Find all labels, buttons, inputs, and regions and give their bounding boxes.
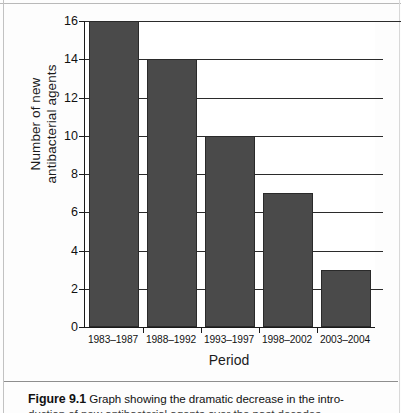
x-axis-tick-label: 1988–1992 [142,334,200,345]
y-axis-title-line1: Number of new [28,0,44,254]
y-axis-tick [79,174,85,175]
bar-chart: Number of new antibacterial agents 02468… [0,0,401,381]
right-axis-tick [375,251,383,252]
x-axis-tick-label: 1993–1997 [200,334,258,345]
y-axis-tick [79,289,85,290]
figure-caption-line1: Graph showing the dramatic decrease in t… [89,392,344,405]
y-axis-tick-label: 8 [50,167,78,181]
x-axis-tick-label: 2003–2004 [316,334,374,345]
y-axis-tick-labels: 0246810121416 [50,21,78,327]
y-axis-tick-label: 6 [50,205,78,219]
bar [147,59,197,327]
figure-caption-line2: duction of new antibacterial agents over… [28,407,378,413]
caption-divider [4,381,398,382]
y-axis-tick [79,136,85,137]
y-axis-tick [79,21,85,22]
x-axis-tick-labels: 1983–19871988–19921993–19971998–20022003… [84,334,374,350]
y-axis-tick [79,327,85,328]
x-axis-tick-label: 1983–1987 [84,334,142,345]
x-axis-tick [259,327,260,333]
y-axis-tick-label: 0 [50,320,78,334]
right-axis-tick [375,212,383,213]
y-axis-tick [79,251,85,252]
bar [263,193,313,327]
y-axis-tick-label: 2 [50,282,78,296]
gridline-extension [375,21,401,22]
y-axis-tick [79,212,85,213]
bar [205,136,255,327]
y-axis-tick-label: 12 [50,91,78,105]
y-axis-tick-label: 10 [50,129,78,143]
y-axis-tick-label: 4 [50,244,78,258]
right-axis-tick [375,289,383,290]
x-axis-tick-label: 1998–2002 [258,334,316,345]
figure-page: Number of new antibacterial agents 02468… [0,0,401,413]
x-axis-tick [317,327,318,333]
right-axis-tick [375,174,383,175]
right-axis-tick [375,136,383,137]
figure-number: Figure 9.1 [28,392,86,406]
y-axis-tick-label: 14 [50,52,78,66]
right-axis-tick [375,59,383,60]
plot-area [84,21,375,328]
y-axis-tick-label: 16 [50,14,78,28]
bar [89,21,139,327]
x-axis-tick [143,327,144,333]
figure-caption: Figure 9.1 Graph showing the dramatic de… [28,392,378,413]
x-axis-tick [201,327,202,333]
x-axis-title: Period [84,352,374,368]
y-axis-tick [79,98,85,99]
right-axis-tick [375,98,383,99]
bar [321,270,371,327]
y-axis-tick [79,59,85,60]
